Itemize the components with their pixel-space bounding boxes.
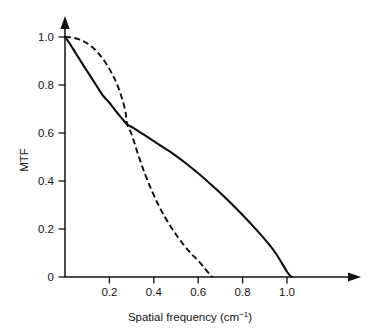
mtf-chart-figure: 0 0.2 0.4 0.6 0.8 1.0 0.2 0.4 0.6 0.8 1.…: [0, 0, 372, 335]
x-axis-title-base: Spatial frequency (cm: [128, 311, 239, 323]
y-tick-label-0-6: 0.6: [38, 127, 54, 139]
y-axis-arrow-icon: [60, 16, 69, 29]
y-tick-label-0-2: 0.2: [38, 223, 54, 235]
y-tick-label-1-0: 1.0: [38, 31, 54, 43]
y-tick-label-0-8: 0.8: [38, 79, 54, 91]
x-tick-label-0-2: 0.2: [101, 286, 117, 298]
x-tick-marks: [109, 277, 287, 284]
chart-canvas: 0 0.2 0.4 0.6 0.8 1.0 0.2 0.4 0.6 0.8 1.…: [0, 0, 372, 335]
x-tick-label-0-8: 0.8: [235, 286, 251, 298]
x-axis-title: Spatial frequency (cm−1): [128, 310, 252, 323]
x-axis-title-close: ): [248, 311, 252, 323]
x-axis-arrow-icon: [348, 272, 361, 281]
y-axis: [60, 16, 69, 277]
x-tick-labels: 0.2 0.4 0.6 0.8 1.0: [101, 286, 295, 298]
x-tick-label-1-0: 1.0: [279, 286, 295, 298]
curve-solid-mtf: [65, 37, 291, 277]
y-tick-marks: [59, 37, 66, 277]
x-tick-label-0-6: 0.6: [190, 286, 206, 298]
y-axis-title: MTF: [18, 148, 30, 172]
x-tick-label-0-4: 0.4: [146, 286, 163, 298]
y-tick-label-0: 0: [48, 271, 54, 283]
y-tick-label-0-4: 0.4: [38, 175, 55, 187]
y-tick-labels: 0 0.2 0.4 0.6 0.8 1.0: [38, 31, 55, 283]
